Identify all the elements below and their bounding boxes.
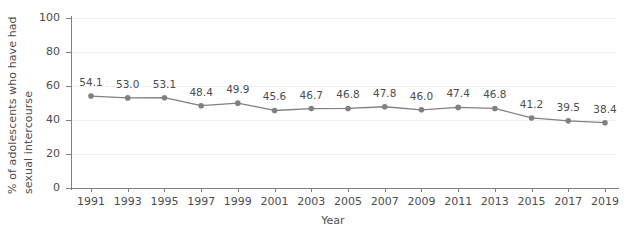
y-axis-title: % of adolescents who have had sexual int… [0, 0, 52, 200]
x-tick-label-2005: 2005 [328, 196, 368, 207]
x-tick-label-1991: 1991 [71, 196, 111, 207]
x-tick-label-1997: 1997 [181, 196, 221, 207]
y-tick-mark-80 [66, 52, 72, 53]
data-label-2019: 38.4 [588, 104, 622, 115]
chart-figure: % of adolescents who have had sexual int… [0, 0, 631, 242]
x-axis-spine [71, 188, 619, 189]
data-label-1993: 53.0 [111, 79, 145, 90]
y-tick-label-20: 20 [34, 148, 60, 159]
data-label-2001: 45.6 [258, 91, 292, 102]
data-label-2003: 46.7 [294, 90, 328, 101]
y-tick-label-60: 60 [34, 80, 60, 91]
data-label-2015: 41.2 [515, 99, 549, 110]
x-tick-mark-2017 [568, 188, 569, 192]
gridline-y-40 [72, 120, 617, 121]
y-axis-title-line-1: % of adolescents who have had [6, 14, 19, 194]
x-tick-mark-2003 [311, 188, 312, 192]
x-tick-label-2011: 2011 [438, 196, 478, 207]
x-tick-label-1995: 1995 [144, 196, 184, 207]
data-label-2007: 47.8 [368, 88, 402, 99]
x-tick-label-2009: 2009 [401, 196, 441, 207]
x-tick-mark-2019 [605, 188, 606, 192]
y-tick-label-40: 40 [34, 114, 60, 125]
x-tick-mark-2013 [495, 188, 496, 192]
x-tick-mark-1995 [164, 188, 165, 192]
y-tick-mark-40 [66, 120, 72, 121]
data-label-2017: 39.5 [551, 102, 585, 113]
data-label-2005: 46.8 [331, 89, 365, 100]
x-tick-label-2007: 2007 [365, 196, 405, 207]
x-tick-mark-2007 [385, 188, 386, 192]
x-tick-label-1993: 1993 [108, 196, 148, 207]
x-tick-mark-2005 [348, 188, 349, 192]
gridline-y-80 [72, 52, 617, 53]
y-axis-spine [71, 16, 72, 190]
gridline-y-20 [72, 154, 617, 155]
x-tick-label-2015: 2015 [512, 196, 552, 207]
data-label-2009: 46.0 [404, 91, 438, 102]
y-tick-mark-60 [66, 86, 72, 87]
y-tick-label-80: 80 [34, 46, 60, 57]
x-tick-mark-2001 [275, 188, 276, 192]
y-tick-label-100: 100 [34, 12, 60, 23]
x-tick-label-2017: 2017 [548, 196, 588, 207]
y-tick-mark-20 [66, 154, 72, 155]
x-tick-mark-2015 [532, 188, 533, 192]
x-tick-label-2003: 2003 [291, 196, 331, 207]
x-tick-mark-1993 [128, 188, 129, 192]
x-tick-mark-2011 [458, 188, 459, 192]
y-tick-label-0: 0 [34, 182, 60, 193]
data-label-2011: 47.4 [441, 88, 475, 99]
data-label-1995: 53.1 [147, 79, 181, 90]
data-label-1999: 49.9 [221, 84, 255, 95]
x-axis-title: Year [303, 214, 363, 227]
data-label-1991: 54.1 [74, 77, 108, 88]
y-tick-mark-0 [66, 188, 72, 189]
x-tick-label-2019: 2019 [585, 196, 625, 207]
x-tick-mark-2009 [421, 188, 422, 192]
gridline-y-100 [72, 18, 617, 19]
x-tick-mark-1999 [238, 188, 239, 192]
x-tick-label-1999: 1999 [218, 196, 258, 207]
data-label-2013: 46.8 [478, 89, 512, 100]
x-tick-mark-1997 [201, 188, 202, 192]
y-tick-mark-100 [66, 18, 72, 19]
x-tick-mark-1991 [91, 188, 92, 192]
x-tick-label-2013: 2013 [475, 196, 515, 207]
x-tick-label-2001: 2001 [255, 196, 295, 207]
data-label-1997: 48.4 [184, 87, 218, 98]
